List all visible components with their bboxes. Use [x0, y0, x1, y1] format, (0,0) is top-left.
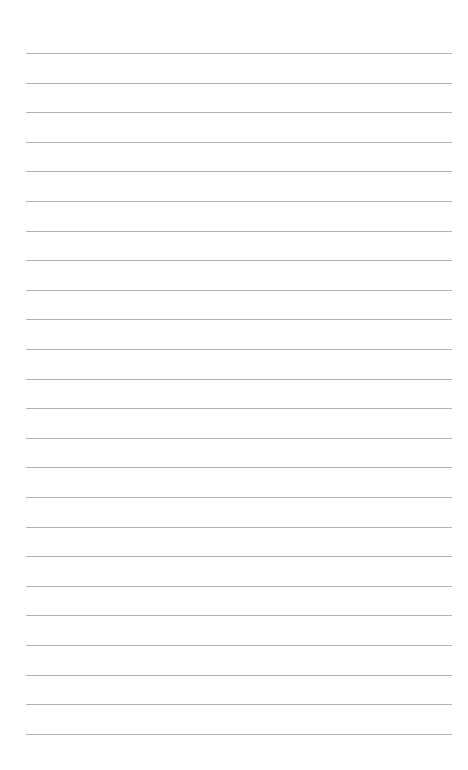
ruled-line	[26, 319, 452, 320]
ruled-line	[26, 734, 452, 735]
ruled-line	[26, 379, 452, 380]
ruled-line	[26, 438, 452, 439]
lined-paper-page	[0, 0, 468, 770]
ruled-line	[26, 112, 452, 113]
ruled-line	[26, 231, 452, 232]
ruled-line	[26, 83, 452, 84]
ruled-line	[26, 704, 452, 705]
ruled-line	[26, 142, 452, 143]
ruled-line	[26, 408, 452, 409]
ruled-line	[26, 260, 452, 261]
ruled-line	[26, 171, 452, 172]
ruled-line	[26, 53, 452, 54]
ruled-line	[26, 645, 452, 646]
ruled-line	[26, 556, 452, 557]
ruled-line	[26, 527, 452, 528]
ruled-line	[26, 615, 452, 616]
ruled-line	[26, 201, 452, 202]
ruled-line	[26, 467, 452, 468]
ruled-line	[26, 586, 452, 587]
ruled-line	[26, 497, 452, 498]
ruled-line	[26, 290, 452, 291]
ruled-line	[26, 675, 452, 676]
ruled-line	[26, 349, 452, 350]
